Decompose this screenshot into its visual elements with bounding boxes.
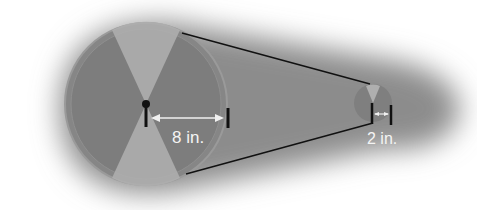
pulley-diagram: 8 in. 2 in. [0,0,477,210]
large-pulley: 8 in. [65,22,228,186]
small-radius-label: 2 in. [367,130,397,147]
large-radius-label: 8 in. [172,128,204,147]
